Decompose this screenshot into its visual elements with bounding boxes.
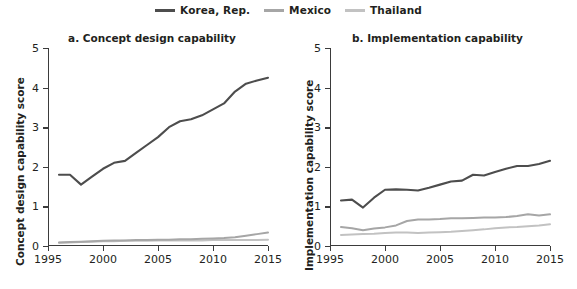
panel-a-x-tick-label-2000: 2000 bbox=[89, 253, 117, 266]
panel-a-x-tick-label-2015: 2015 bbox=[254, 253, 282, 266]
panel-b-y-tick-label-2: 2 bbox=[314, 160, 321, 173]
panel-b-x-tick-label-1995: 1995 bbox=[316, 253, 344, 266]
panel-b-y-tick-label-0: 0 bbox=[314, 240, 321, 253]
panel-a-x-tick-2000 bbox=[103, 246, 104, 251]
panel-b-x-tick-1995 bbox=[330, 246, 331, 251]
panel-a-x-tick-2005 bbox=[158, 246, 159, 251]
panel-b-y-tick-label-5: 5 bbox=[314, 42, 321, 55]
panel-a-y-tick-label-1: 1 bbox=[32, 200, 39, 213]
legend-item-korea: Korea, Rep. bbox=[155, 4, 250, 16]
panel-b-x-tick-label-2010: 2010 bbox=[481, 253, 509, 266]
panel-b-series-group bbox=[330, 48, 550, 246]
panel-a-y-axis-label: Concept design capability score bbox=[14, 77, 26, 266]
chart-legend: Korea, Rep. Mexico Thailand bbox=[0, 4, 577, 16]
panel-b-x-tick-2005 bbox=[440, 246, 441, 251]
charts-container: a. Concept design capability Concept des… bbox=[0, 28, 577, 289]
panel-b-plot-area: 01234519952000200520102015 bbox=[330, 48, 550, 246]
panel-a-plot-area: 01234519952000200520102015 bbox=[48, 48, 268, 246]
legend-label-korea: Korea, Rep. bbox=[180, 4, 250, 16]
panel-b-y-tick-label-1: 1 bbox=[314, 200, 321, 213]
legend-label-mexico: Mexico bbox=[289, 4, 331, 16]
panel-a-series-group bbox=[48, 48, 268, 246]
panel-a-title: a. Concept design capability bbox=[0, 32, 290, 44]
panel-a-x-tick-label-2005: 2005 bbox=[144, 253, 172, 266]
panel-b-x-tick-label-2015: 2015 bbox=[536, 253, 564, 266]
panel-a-x-tick-label-2010: 2010 bbox=[199, 253, 227, 266]
panel-a-x-tick-2010 bbox=[213, 246, 214, 251]
legend-swatch-korea bbox=[155, 9, 175, 12]
panel-b-y-tick-label-4: 4 bbox=[314, 81, 321, 94]
panel-b-x-tick-label-2000: 2000 bbox=[371, 253, 399, 266]
panel-b-line-korea-rep bbox=[341, 161, 550, 208]
legend-swatch-thailand bbox=[345, 9, 365, 12]
panel-a-line-korea-rep bbox=[59, 78, 268, 185]
panel-a-y-tick-label-0: 0 bbox=[32, 240, 39, 253]
panel-b-y-tick-label-3: 3 bbox=[314, 121, 321, 134]
panel-b-x-tick-label-2005: 2005 bbox=[426, 253, 454, 266]
panel-a-x-tick-2015 bbox=[268, 246, 269, 251]
panel-b-x-tick-2015 bbox=[550, 246, 551, 251]
panel-a-y-tick-label-4: 4 bbox=[32, 81, 39, 94]
legend-item-thailand: Thailand bbox=[345, 4, 422, 16]
panel-b-x-tick-2000 bbox=[385, 246, 386, 251]
legend-label-thailand: Thailand bbox=[370, 4, 422, 16]
chart-panel-a: a. Concept design capability Concept des… bbox=[0, 28, 290, 289]
panel-a-x-tick-label-1995: 1995 bbox=[34, 253, 62, 266]
panel-a-x-tick-1995 bbox=[48, 246, 49, 251]
chart-panel-b: b. Implementation capability Implementat… bbox=[290, 28, 577, 289]
legend-item-mexico: Mexico bbox=[264, 4, 331, 16]
panel-b-title: b. Implementation capability bbox=[290, 32, 577, 44]
panel-a-y-tick-label-5: 5 bbox=[32, 42, 39, 55]
panel-b-x-tick-2010 bbox=[495, 246, 496, 251]
legend-swatch-mexico bbox=[264, 9, 284, 12]
panel-a-y-tick-label-2: 2 bbox=[32, 160, 39, 173]
panel-a-y-tick-label-3: 3 bbox=[32, 121, 39, 134]
